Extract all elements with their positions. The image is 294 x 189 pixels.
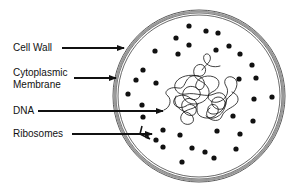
label-ribosomes: Ribosomes bbox=[13, 128, 63, 140]
dna-nucleoid bbox=[164, 54, 238, 124]
label-dna: DNA bbox=[13, 105, 34, 117]
label-cytoplasmic-membrane-line1: Cytoplasmic bbox=[13, 67, 67, 79]
cytoplasmic-membrane bbox=[118, 15, 280, 177]
label-cytoplasmic-membrane-line2: Membrane bbox=[13, 79, 61, 91]
cell-wall bbox=[113, 10, 285, 182]
bacterial-cell-diagram bbox=[0, 0, 294, 189]
leader-arrows bbox=[38, 48, 163, 139]
ribosomes-arrow-branch-up bbox=[140, 126, 142, 134]
label-cell-wall: Cell Wall bbox=[13, 42, 52, 54]
